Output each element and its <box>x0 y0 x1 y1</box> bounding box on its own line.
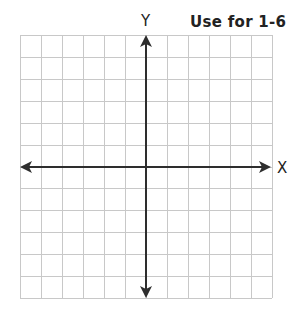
axes <box>20 35 271 298</box>
coordinate-plane <box>0 0 305 316</box>
